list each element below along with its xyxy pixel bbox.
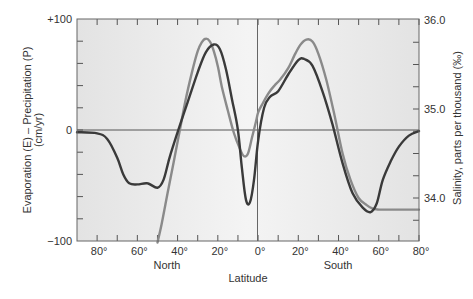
y-tick-label-left: +100 bbox=[47, 13, 72, 25]
y-tick-label-right: 34.0 bbox=[424, 192, 445, 204]
chart: 80°60°40°20°0°20°40°60°80° +1000−100 36.… bbox=[0, 0, 473, 299]
y-tick-label-right: 35.0 bbox=[424, 103, 445, 115]
x-tick-label: 20° bbox=[292, 245, 309, 257]
y-tick-label-left: −100 bbox=[47, 235, 72, 247]
x-axis-label: Latitude bbox=[228, 272, 267, 284]
x-tick-label: 20° bbox=[212, 245, 229, 257]
x-tick-label: 80° bbox=[91, 245, 108, 257]
y-tick-label-left: 0 bbox=[66, 124, 72, 136]
y-tick-labels-left: +1000−100 bbox=[47, 13, 72, 247]
x-tick-label: 60° bbox=[131, 245, 148, 257]
y-axis-label-right: Salinity, parts per thousand (‰) bbox=[451, 51, 463, 205]
x-tick-label: 40° bbox=[332, 245, 349, 257]
x-tick-label: 60° bbox=[372, 245, 389, 257]
north-label: North bbox=[154, 259, 181, 271]
y-tick-labels-right: 36.035.034.0 bbox=[424, 14, 445, 204]
y-axis-label-left-line2: (cm/yr) bbox=[32, 113, 44, 147]
x-tick-labels: 80°60°40°20°0°20°40°60°80° bbox=[91, 245, 430, 257]
x-tick-label: 80° bbox=[413, 245, 430, 257]
y-tick-label-right: 36.0 bbox=[424, 14, 445, 26]
south-label: South bbox=[324, 259, 353, 271]
x-tick-label: 40° bbox=[171, 245, 188, 257]
x-tick-label: 0° bbox=[255, 245, 266, 257]
